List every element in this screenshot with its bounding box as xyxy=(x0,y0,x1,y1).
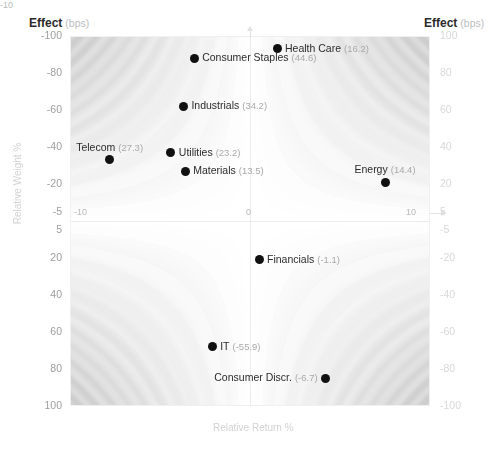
data-label-name: Industrials xyxy=(191,99,239,111)
plot-area: Consumer Discr.(-6.7)IT(-55.9)Health Car… xyxy=(70,36,430,406)
data-label-value: (-1.1) xyxy=(317,254,340,265)
data-point-industrials[interactable] xyxy=(179,102,188,111)
effect-header-left-title: Effect xyxy=(29,16,62,30)
horizontal-divider xyxy=(70,221,430,222)
y-axis-arrow-head xyxy=(247,26,253,31)
data-label-name: Consumer Discr. xyxy=(214,371,292,383)
x-tick-1: 0 xyxy=(246,207,251,217)
data-label-financials: Financials(-1.1) xyxy=(267,253,340,265)
y-tick-right-11: -100 xyxy=(440,399,480,411)
y-tick-right-1: 80 xyxy=(440,66,480,78)
y-tick-left-4: -20 xyxy=(22,177,62,189)
data-label-consumer-discr: Consumer Discr.(-6.7) xyxy=(214,371,317,383)
y-tick-right-6: -5 xyxy=(440,223,480,235)
data-label-value: (13.5) xyxy=(239,165,264,176)
effect-header-left-unit: (bps) xyxy=(65,17,89,29)
data-label-name: Consumer Staples xyxy=(202,51,288,63)
x-axis-extra-tick: -10 xyxy=(0,0,500,10)
data-label-name: Energy xyxy=(354,163,387,175)
y-tick-right-8: -40 xyxy=(440,288,480,300)
data-label-energy: Energy(14.4) xyxy=(354,163,415,175)
effect-header-right-title: Effect xyxy=(424,16,457,30)
data-label-name: Utilities xyxy=(179,146,213,158)
data-label-it: IT(-55.9) xyxy=(220,340,260,352)
y-tick-right-2: 60 xyxy=(440,103,480,115)
y-tick-left-3: -40 xyxy=(22,140,62,152)
data-label-consumer-staples: Consumer Staples(44.6) xyxy=(202,51,316,63)
y-tick-right-5: 5 xyxy=(440,205,480,217)
effect-header-left: Effect(bps) xyxy=(29,16,89,30)
data-label-value: (-6.7) xyxy=(295,372,318,383)
data-label-telecom: Telecom(27.3) xyxy=(76,141,143,153)
y-tick-right-0: 100 xyxy=(440,29,480,41)
x-axis-title: Relative Return % xyxy=(213,422,294,433)
y-tick-left-9: 60 xyxy=(22,325,62,337)
effect-header-right-unit: (bps) xyxy=(460,17,484,29)
data-point-energy[interactable] xyxy=(381,178,390,187)
y-tick-right-7: -20 xyxy=(440,251,480,263)
data-label-value: (44.6) xyxy=(292,52,317,63)
data-point-financials[interactable] xyxy=(255,255,264,264)
data-label-name: Financials xyxy=(267,253,314,265)
y-tick-right-3: 40 xyxy=(440,140,480,152)
data-label-utilities: Utilities(23.2) xyxy=(179,146,241,158)
x-tick-0: -10 xyxy=(74,207,87,217)
data-label-value: (34.2) xyxy=(242,100,267,111)
data-point-consumer-staples[interactable] xyxy=(190,54,199,63)
data-label-value: (14.4) xyxy=(391,164,416,175)
y-tick-left-6: 5 xyxy=(22,223,62,235)
data-label-value: (-55.9) xyxy=(233,341,261,352)
y-tick-right-10: -80 xyxy=(440,362,480,374)
x-tick-2: 10 xyxy=(406,207,416,217)
data-label-value: (23.2) xyxy=(216,147,241,158)
data-point-it[interactable] xyxy=(208,342,217,351)
effect-header-right: Effect(bps) xyxy=(424,16,484,30)
y-tick-right-4: 20 xyxy=(440,177,480,189)
y-tick-left-8: 40 xyxy=(22,288,62,300)
attribution-scatter-chart: Effect(bps) Effect(bps) Consumer Discr.(… xyxy=(0,0,500,453)
y-tick-left-1: -80 xyxy=(22,66,62,78)
data-label-name: Telecom xyxy=(76,141,115,153)
data-label-value: (27.3) xyxy=(118,142,143,153)
data-label-name: IT xyxy=(220,340,229,352)
y-tick-right-9: -60 xyxy=(440,325,480,337)
y-tick-left-10: 80 xyxy=(22,362,62,374)
data-label-value: (16.2) xyxy=(344,43,369,54)
y-axis-title: Relative Weight % xyxy=(12,129,23,239)
data-label-name: Materials xyxy=(193,164,236,176)
y-tick-left-11: 100 xyxy=(22,399,62,411)
data-label-industrials: Industrials(34.2) xyxy=(191,99,267,111)
data-point-consumer-discr[interactable] xyxy=(321,374,330,383)
y-tick-left-5: -5 xyxy=(22,205,62,217)
y-tick-left-0: -100 xyxy=(22,29,62,41)
data-point-materials[interactable] xyxy=(181,167,190,176)
y-tick-left-2: -60 xyxy=(22,103,62,115)
y-tick-left-7: 20 xyxy=(22,251,62,263)
data-label-materials: Materials(13.5) xyxy=(193,164,263,176)
